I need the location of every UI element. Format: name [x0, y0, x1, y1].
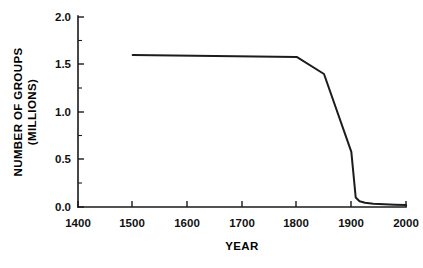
x-tick-label-2000: 2000 [393, 217, 419, 229]
x-tick-label-1500: 1500 [119, 217, 145, 229]
chart-page: 2.0 1.5 1.0 0.5 0.0 1400 1500 1600 1700 … [0, 0, 423, 268]
y-tick-label-1-5: 1.5 [55, 58, 72, 70]
x-tick-label-1900: 1900 [338, 217, 364, 229]
x-axis-title: YEAR [225, 240, 259, 252]
y-tick-label-2-0: 2.0 [55, 11, 71, 23]
y-axis-title-line2: (MILLIONS) [26, 79, 38, 146]
y-tick-label-0-0: 0.0 [55, 201, 71, 213]
x-tick-label-1800: 1800 [283, 217, 309, 229]
x-tick-label-1400: 1400 [65, 217, 91, 229]
y-axis-title-line1: NUMBER OF GROUPS [12, 47, 24, 176]
x-tick-label-1700: 1700 [229, 217, 255, 229]
x-tick-label-1600: 1600 [174, 217, 200, 229]
y-tick-label-0-5: 0.5 [55, 153, 72, 165]
y-tick-label-1-0: 1.0 [55, 106, 71, 118]
line-chart: 2.0 1.5 1.0 0.5 0.0 1400 1500 1600 1700 … [0, 0, 423, 268]
